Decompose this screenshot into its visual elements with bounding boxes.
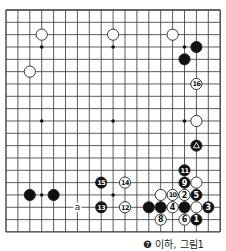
star-point (183, 119, 187, 123)
move-number: 3 (206, 203, 212, 212)
black-stone: 11 (179, 165, 190, 176)
white-stone (36, 29, 47, 40)
board-markers: a (73, 202, 81, 212)
white-stone (24, 66, 35, 77)
move-number: 2 (182, 191, 188, 200)
move-number: 4 (170, 203, 176, 212)
black-stone: 9 (179, 177, 190, 188)
white-stone: 2 (179, 189, 190, 200)
black-stone (48, 189, 59, 200)
white-stone (191, 177, 202, 188)
move-number: 6 (182, 215, 188, 224)
move-number: 10 (169, 191, 178, 199)
white-stone: 12 (119, 202, 130, 213)
black-stone: 13 (96, 202, 107, 213)
black-stone (191, 41, 202, 52)
move-number: 12 (121, 204, 129, 212)
white-stone (167, 29, 178, 40)
move-number: 14 (121, 179, 130, 187)
move-number: 1 (194, 215, 200, 224)
black-stone: 3 (203, 202, 214, 213)
point-label-a: a (75, 202, 81, 212)
star-point (111, 193, 115, 197)
star-point (111, 45, 115, 49)
star-point (111, 119, 115, 123)
black-stone (155, 202, 166, 213)
move-number: 9 (182, 179, 188, 188)
white-stone: 8 (155, 214, 166, 225)
star-point (183, 45, 187, 49)
move-number: 8 (158, 215, 164, 224)
star-point (40, 45, 44, 49)
move-number: 16 (192, 80, 201, 88)
black-stone: 5 (191, 189, 202, 200)
black-stone (179, 54, 190, 65)
star-point (40, 193, 44, 197)
star-point (40, 119, 44, 123)
board-stones: 1611910254386115141312 (24, 29, 214, 225)
move-number: 5 (194, 191, 200, 200)
black-stone: 15 (96, 177, 107, 188)
white-stone (191, 115, 202, 126)
move-number: 11 (181, 167, 190, 175)
black-stone: 1 (191, 214, 202, 225)
white-stone: 10 (167, 189, 178, 200)
white-stone (108, 29, 119, 40)
black-stone (24, 189, 35, 200)
move-number: 13 (97, 204, 105, 212)
white-stone: 6 (179, 214, 190, 225)
black-stone (143, 202, 154, 213)
white-stone: 14 (119, 177, 130, 188)
white-stone (155, 189, 166, 200)
white-stone (191, 202, 202, 213)
white-stone: 4 (167, 202, 178, 213)
white-stone: 16 (191, 78, 202, 89)
black-stone (179, 202, 190, 213)
black-stone (191, 140, 202, 151)
diagram-caption: ❼ 이하, 그림1 (143, 236, 204, 251)
move-number: 15 (97, 179, 106, 187)
